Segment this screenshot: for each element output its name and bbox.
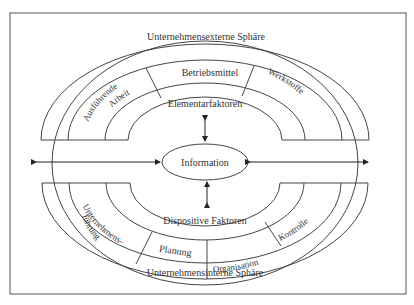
elementary-label: Elementarfaktoren — [168, 98, 242, 109]
dispositive-label: Dispositive Faktoren — [163, 215, 247, 226]
segment-kontrolle: Kontrolle — [277, 216, 310, 243]
segment-planung: Planung — [158, 243, 192, 258]
information-label: Information — [181, 157, 229, 168]
segment-werkstoffe: Werkstoffe — [267, 66, 307, 96]
external-sphere-label: Unternehmensexterne Sphäre — [147, 31, 266, 42]
production-factors-diagram: Unternehmensexterne Sphäre Betriebsmitte… — [0, 0, 414, 305]
segment-betriebsmittel: Betriebsmittel — [182, 67, 239, 78]
